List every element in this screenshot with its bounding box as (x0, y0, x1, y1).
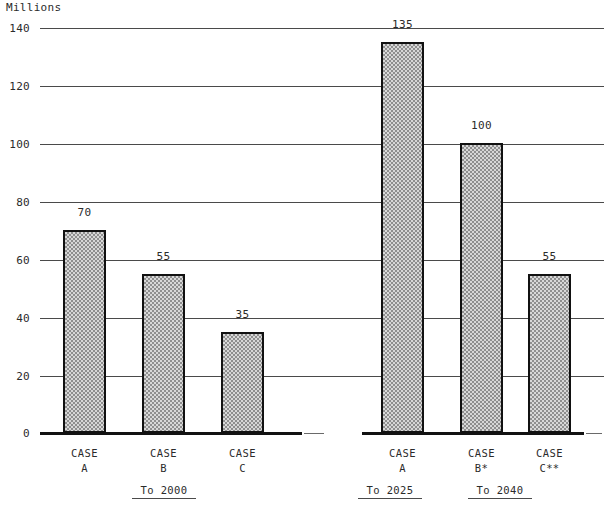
bar-value-case-c-2040: 55 (528, 250, 571, 263)
category-label-case-b-2000: CASE B (132, 446, 195, 476)
gridline-60 (40, 260, 604, 261)
bar-case-b-2025[interactable] (460, 143, 503, 433)
gridline-140 (40, 28, 604, 29)
bar-case-a-2025[interactable] (381, 42, 424, 433)
y-tick-label-40: 40 (0, 312, 30, 325)
gridline-100 (40, 144, 604, 145)
category-line1: CASE (211, 446, 274, 461)
plot-area: 140 120 100 80 60 40 20 0 70 55 35 135 1… (0, 0, 604, 518)
category-line2: C** (518, 461, 581, 476)
y-tick-label-100: 100 (0, 138, 30, 151)
bar-case-b-2000[interactable] (142, 274, 185, 433)
category-line1: CASE (518, 446, 581, 461)
bar-value-case-b-2000: 55 (142, 250, 185, 263)
y-tick-label-140: 140 (0, 22, 30, 35)
category-line2: B (132, 461, 195, 476)
category-line2: A (371, 461, 434, 476)
category-line1: CASE (371, 446, 434, 461)
group-label-to-2025: To 2025 (358, 484, 422, 499)
category-label-case-a-2025: CASE A (371, 446, 434, 476)
bar-case-a-2000[interactable] (63, 230, 106, 433)
category-label-case-c-2000: CASE C (211, 446, 274, 476)
y-tick-label-120: 120 (0, 80, 30, 93)
category-label-case-c-2040: CASE C** (518, 446, 581, 476)
bar-value-case-a-2025: 135 (381, 18, 424, 31)
bar-chart: Millions 140 120 100 80 60 40 20 0 70 55 (0, 0, 604, 518)
bar-case-c-2040[interactable] (528, 274, 571, 433)
category-line2: C (211, 461, 274, 476)
axis-stub-center (304, 433, 324, 434)
category-label-case-b-2025: CASE B* (450, 446, 513, 476)
category-line2: A (53, 461, 116, 476)
gridline-40 (40, 318, 604, 319)
y-tick-label-0: 0 (0, 427, 30, 440)
category-line2: B* (450, 461, 513, 476)
y-tick-label-20: 20 (0, 370, 30, 383)
group-label-to-2000: To 2000 (132, 484, 196, 499)
category-line1: CASE (450, 446, 513, 461)
gridline-20 (40, 376, 604, 377)
group-label-to-2040: To 2040 (468, 484, 532, 499)
category-line1: CASE (132, 446, 195, 461)
y-tick-label-80: 80 (0, 196, 30, 209)
bar-value-case-b-2025: 100 (460, 119, 503, 132)
gridline-80 (40, 202, 604, 203)
axis-stub-right (586, 433, 602, 434)
category-label-case-a-2000: CASE A (53, 446, 116, 476)
bar-value-case-c-2000: 35 (221, 308, 264, 321)
bar-case-c-2000[interactable] (221, 332, 264, 433)
bar-value-case-a-2000: 70 (63, 206, 106, 219)
y-tick-label-60: 60 (0, 254, 30, 267)
category-line1: CASE (53, 446, 116, 461)
gridline-120 (40, 86, 604, 87)
